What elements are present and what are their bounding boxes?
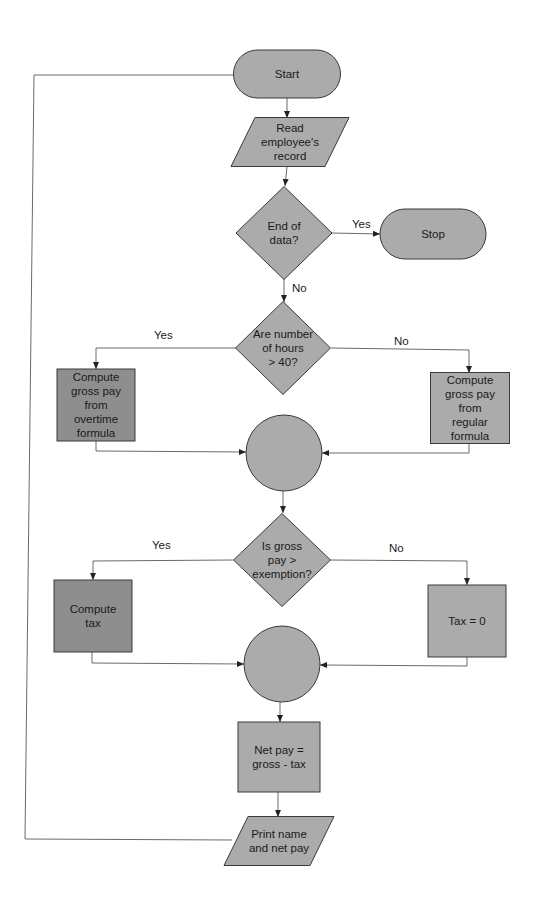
node-label-line: regular <box>452 416 488 428</box>
node-label-line: Stop <box>421 228 445 240</box>
node-label-line: gross - tax <box>252 758 306 770</box>
node-label-line: pay > <box>268 554 297 566</box>
process-box-shape <box>238 722 320 792</box>
node-label-line: employee's <box>261 136 319 148</box>
node-start: Start <box>234 50 341 98</box>
node-tax-zero: Tax = 0 <box>428 585 506 657</box>
edge-gross-gt-exemption-to-compute-tax <box>93 560 233 580</box>
node-label-line: data? <box>270 234 299 246</box>
nodes-layer: StartReademployee'srecordEnd ofdata?Stop… <box>54 50 510 866</box>
node-label-line: exemption? <box>252 568 311 580</box>
node-connector1 <box>246 415 322 491</box>
node-label-line: tax <box>85 617 101 629</box>
node-label-line: gross pay <box>71 385 121 397</box>
node-label-line: Are number <box>253 328 313 340</box>
edge-compute-tax-to-connector2 <box>92 652 244 664</box>
node-label-line: of hours <box>262 342 304 354</box>
node-label-line: overtime <box>74 413 118 425</box>
node-gross-gt-exemption: Is grosspay >exemption? <box>234 514 331 607</box>
node-print: Print nameand net pay <box>224 817 334 866</box>
node-label-line: Print name <box>251 828 307 840</box>
node-read: Reademployee'srecord <box>231 118 349 167</box>
node-label-line: Tax = 0 <box>448 615 485 627</box>
edge-hours-gt-40-to-overtime <box>96 348 236 369</box>
node-connector2 <box>244 626 320 702</box>
node-label-line: and net pay <box>249 842 309 854</box>
node-label-line: gross pay <box>445 388 495 400</box>
node-label-line: Compute <box>70 603 117 615</box>
edge-regular-to-connector1 <box>322 444 469 453</box>
edge-gross-gt-exemption-to-tax-zero <box>330 560 467 585</box>
edge-end-of-data-to-stop <box>332 233 380 234</box>
node-label-line: Compute <box>73 371 120 383</box>
decision-diamond-shape <box>236 187 332 280</box>
connector-circle-shape <box>244 626 320 702</box>
edge-tax-zero-to-connector2 <box>320 657 467 666</box>
node-overtime: Computegross payfromovertimeformula <box>57 369 135 441</box>
node-label-line: > 40? <box>268 356 297 368</box>
node-stop: Stop <box>380 209 486 259</box>
node-label-line: Net pay = <box>254 744 304 756</box>
node-label-line: Compute <box>447 374 494 386</box>
node-label-line: formula <box>77 427 116 439</box>
node-label-line: Read <box>276 122 304 134</box>
io-parallelogram-shape <box>224 817 334 866</box>
node-label-line: from <box>459 402 482 414</box>
edge-label-yes: Yes <box>352 218 371 230</box>
node-label-line: from <box>85 399 108 411</box>
edge-read-to-end-of-data <box>285 167 287 186</box>
edge-label-yes: Yes <box>154 329 173 341</box>
edge-overtime-to-connector1 <box>96 441 246 452</box>
node-label-line: formula <box>451 430 490 442</box>
edge-label-no: No <box>389 542 404 554</box>
node-label-line: Is gross <box>262 540 303 552</box>
connector-circle-shape <box>246 415 322 491</box>
payroll-flowchart: StartReademployee'srecordEnd ofdata?Stop… <box>0 0 537 908</box>
node-end-of-data: End ofdata? <box>236 187 332 280</box>
edge-label-yes: Yes <box>152 539 171 551</box>
edge-label-no: No <box>394 335 409 347</box>
node-hours-gt-40: Are numberof hours> 40? <box>236 302 331 395</box>
node-regular: Computegross payfromregularformula <box>431 373 510 444</box>
node-label-line: End of <box>267 220 301 232</box>
node-net-pay: Net pay =gross - tax <box>238 722 320 792</box>
node-label-line: record <box>274 150 307 162</box>
edge-hours-gt-40-to-regular <box>331 348 469 373</box>
node-label-line: Start <box>275 68 300 80</box>
process-box-shape <box>54 580 132 652</box>
edge-print-to-start <box>25 75 234 840</box>
node-compute-tax: Computetax <box>54 580 132 652</box>
edge-label-no: No <box>292 282 307 294</box>
